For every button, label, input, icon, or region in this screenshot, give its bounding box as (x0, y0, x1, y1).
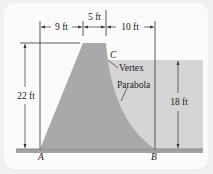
vertex-label: Vertex (119, 63, 144, 73)
label-base-left: 9 ft (55, 22, 68, 32)
parabola-label: Parabola (117, 80, 151, 90)
label-top-width: 5 ft (88, 12, 101, 22)
point-b-label: B (151, 152, 157, 162)
dimension-5ft (84, 26, 105, 29)
dam-diagram: 9 ft 5 ft 10 ft 22 ft 18 ft C Vertex Par… (0, 0, 213, 174)
label-base-right: 10 ft (121, 22, 139, 32)
ground-strip (16, 149, 203, 153)
point-a-label: A (37, 152, 44, 162)
label-dam-height: 22 ft (17, 91, 35, 101)
label-water-depth: 18 ft (170, 97, 188, 107)
point-c-label: C (110, 50, 117, 60)
